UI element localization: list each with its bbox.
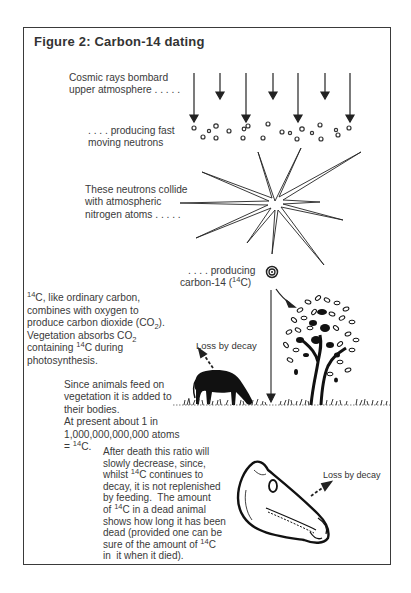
cosmic-ray-arrow-icon [190, 73, 198, 122]
cosmic-ray-arrow-icon [321, 73, 329, 99]
grass-icon [173, 398, 390, 405]
loss-arrow-living-icon [199, 349, 213, 368]
cosmic-ray-arrow-icon [346, 73, 354, 122]
to-tree-arrow-icon [276, 289, 295, 307]
neutron-dots [192, 122, 351, 141]
grazing-horse-icon [194, 370, 253, 405]
illustration-layer [0, 0, 411, 593]
cosmic-ray-arrow-icon [216, 73, 224, 99]
cosmic-ray-arrow-icon [269, 73, 277, 99]
uptake-arrow-icon [267, 290, 275, 402]
cosmic-ray-arrow-icon [294, 73, 302, 122]
loss-arrow-dead-icon [311, 482, 331, 496]
tree-icon [283, 295, 359, 405]
cosmic-ray-arrow-icon [242, 73, 250, 122]
collision-starburst-icon [180, 148, 361, 265]
cosmic-ray-arrows [190, 73, 354, 122]
carbon14-atom-icon [267, 267, 278, 278]
horse-skull-icon [238, 462, 329, 543]
